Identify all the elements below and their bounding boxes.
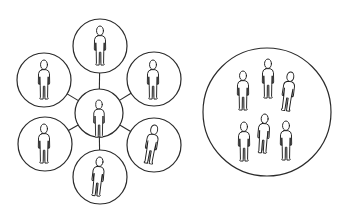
network-node-upper-left <box>17 53 71 107</box>
network-node-bottom <box>73 150 127 204</box>
network-nodes <box>17 19 181 204</box>
network-link-lower-right <box>120 125 131 131</box>
group-circle <box>203 48 331 176</box>
diagram-svg <box>0 0 344 218</box>
network-link-upper-right <box>119 93 131 100</box>
diagram-canvas: Network of individuals vs. group <box>0 0 344 218</box>
network-node-lower-left <box>18 117 72 171</box>
network-node-lower-right <box>127 118 181 172</box>
network-hub <box>75 89 123 137</box>
network-node-top <box>73 19 127 73</box>
network-link-upper-left <box>67 94 78 101</box>
network-node-upper-right <box>127 52 181 106</box>
network-link-lower-left <box>68 125 78 131</box>
